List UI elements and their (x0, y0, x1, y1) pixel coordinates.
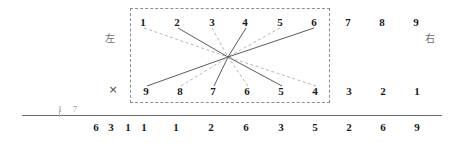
scale-label-2: 3 (108, 122, 114, 133)
baseline-rule (22, 115, 442, 116)
top-outer-label-1: 7 (345, 17, 351, 28)
scale-label-7: 6 (243, 122, 249, 133)
bottom-inner-label-3: 7 (210, 86, 216, 97)
scale-label-4: 1 (141, 122, 147, 133)
scale-label-3: 1 (125, 122, 131, 133)
top-inner-label-5: 5 (277, 17, 283, 28)
scale-label-6: 2 (208, 122, 214, 133)
dashed-region-box (130, 8, 330, 103)
bottom-outer-label-1: 3 (346, 86, 352, 97)
scale-label-9: 5 (312, 122, 318, 133)
top-outer-label-3: 9 (413, 17, 419, 28)
bottom-outer-label-2: 2 (380, 86, 386, 97)
bottom-outer-label-3: 1 (414, 86, 420, 97)
top-outer-label-2: 8 (379, 17, 385, 28)
top-inner-label-6: 6 (311, 17, 317, 28)
scale-label-8: 3 (278, 122, 284, 133)
bottom-inner-label-5: 5 (278, 86, 284, 97)
top-inner-label-4: 4 (242, 17, 248, 28)
bottom-inner-label-2: 8 (177, 86, 183, 97)
figure-canvas: 12345678998765432163111263526917左右× (0, 0, 464, 143)
left-cjk-label: 左 (105, 34, 115, 44)
scale-label-5: 1 (173, 122, 179, 133)
scale-label-12: 9 (414, 122, 420, 133)
scale-label-11: 6 (380, 122, 386, 133)
cross-mark-icon: × (108, 84, 117, 95)
top-inner-label-1: 1 (140, 17, 146, 28)
top-inner-label-3: 3 (209, 17, 215, 28)
baseline-tick-mark (59, 109, 60, 117)
bottom-inner-label-1: 9 (143, 86, 149, 97)
bottom-inner-label-6: 4 (312, 86, 318, 97)
bottom-inner-label-4: 6 (244, 86, 250, 97)
scale-label-1: 6 (93, 122, 99, 133)
baseline-faint-label-right: 7 (73, 105, 78, 114)
top-inner-label-2: 2 (174, 17, 180, 28)
scale-label-10: 2 (346, 122, 352, 133)
right-cjk-label: 右 (425, 34, 435, 44)
